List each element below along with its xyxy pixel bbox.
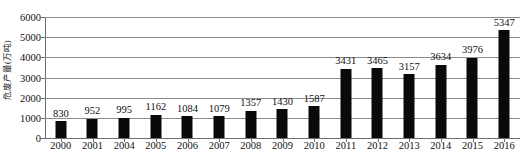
bar-group: 3634 (425, 17, 457, 138)
bar-group: 3976 (457, 17, 489, 138)
bar (309, 106, 320, 138)
bar-group: 830 (45, 17, 77, 138)
y-tick-label: 3000 (20, 72, 41, 83)
bar (277, 109, 288, 138)
bar (119, 118, 130, 138)
bar-group: 1162 (140, 17, 172, 138)
bar-value-label: 1079 (209, 104, 230, 115)
x-tick-label: 2010 (304, 141, 325, 152)
x-tick-label: 2006 (177, 141, 198, 152)
bar (467, 58, 478, 138)
y-tick-label: 5000 (20, 32, 41, 43)
bar-value-label: 3465 (367, 56, 388, 67)
bar-group: 995 (108, 17, 140, 138)
x-tick-label: 2014 (430, 141, 451, 152)
x-tick-label: 2001 (82, 141, 103, 152)
bar (245, 111, 256, 138)
x-tick-label: 2007 (209, 141, 230, 152)
bar (404, 74, 415, 138)
bar-value-label: 1587 (304, 94, 325, 105)
bar-group: 3431 (330, 17, 362, 138)
bar-value-label: 5347 (494, 18, 515, 29)
bar (87, 119, 98, 138)
y-axis-tick-labels: 0100020003000400050006000 (14, 0, 45, 140)
y-tick-label: 2000 (20, 92, 41, 103)
bar-value-label: 3431 (335, 56, 356, 67)
x-axis-tick-labels: 2000200120042005200620072008200920102011… (45, 141, 520, 155)
x-tick-label: 2008 (240, 141, 261, 152)
bar-group: 1079 (203, 17, 235, 138)
bar-group: 1430 (267, 17, 299, 138)
y-tick-label: 4000 (20, 52, 41, 63)
bar (340, 69, 351, 138)
x-tick-label: 2012 (367, 141, 388, 152)
bar-group: 3465 (362, 17, 394, 138)
bar (435, 65, 446, 138)
x-tick-label: 2009 (272, 141, 293, 152)
bar-value-label: 995 (116, 105, 132, 116)
bar (150, 115, 161, 138)
bar-chart-figure: 危废产量(万吨) 0100020003000400050006000 83095… (0, 0, 531, 168)
y-axis-title: 危废产量(万吨) (0, 0, 14, 140)
bar-value-label: 830 (53, 109, 69, 120)
x-tick-label: 2016 (494, 141, 515, 152)
bar-value-label: 3976 (462, 45, 483, 56)
bar-value-label: 952 (85, 106, 101, 117)
plot-area: 8309529951162108410791357143015873431346… (45, 17, 520, 138)
bar-group: 1587 (298, 17, 330, 138)
x-tick-label: 2005 (145, 141, 166, 152)
bar-group: 3157 (393, 17, 425, 138)
bar-group: 1084 (172, 17, 204, 138)
bar (499, 30, 510, 138)
x-tick-label: 2000 (50, 141, 71, 152)
bar-value-label: 1430 (272, 97, 293, 108)
bar (182, 116, 193, 138)
bar-group: 5347 (488, 17, 520, 138)
y-tick-label: 1000 (20, 112, 41, 123)
bar-group: 952 (77, 17, 109, 138)
bar (372, 68, 383, 138)
x-tick-label: 2011 (336, 141, 357, 152)
bar-group: 1357 (235, 17, 267, 138)
bar-value-label: 3634 (430, 52, 451, 63)
bar (214, 116, 225, 138)
y-axis-title-label: 危废产量(万吨) (3, 40, 12, 100)
x-tick-label: 2015 (462, 141, 483, 152)
x-tick-label: 2013 (399, 141, 420, 152)
bar-value-label: 1162 (146, 102, 167, 113)
bar-value-label: 1084 (177, 104, 198, 115)
bar (55, 121, 66, 138)
y-tick-label: 6000 (20, 12, 41, 23)
bar-value-label: 3157 (399, 62, 420, 73)
x-tick-label: 2004 (114, 141, 135, 152)
bars-layer: 8309529951162108410791357143015873431346… (45, 17, 520, 138)
bar-value-label: 1357 (240, 98, 261, 109)
